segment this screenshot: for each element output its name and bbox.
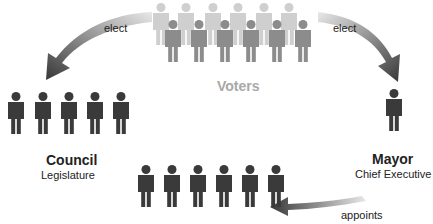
council-label: Council — [46, 152, 97, 168]
voters-label: Voters — [217, 78, 260, 94]
elect-council-arrow — [46, 12, 152, 80]
elect-mayor-arrow — [318, 12, 400, 82]
council-subtitle: Legislature — [41, 169, 95, 181]
mayor-label: Mayor — [372, 151, 413, 167]
elect-mayor-label: elect — [333, 22, 356, 34]
appointee-figures — [138, 165, 284, 207]
diagram-canvas — [0, 0, 433, 224]
mayor-subtitle: Chief Executive — [355, 168, 431, 180]
mayor-figure — [386, 89, 402, 131]
council-figures — [8, 92, 129, 134]
elect-council-label: elect — [104, 22, 127, 34]
appoints-label: appoints — [341, 209, 383, 221]
